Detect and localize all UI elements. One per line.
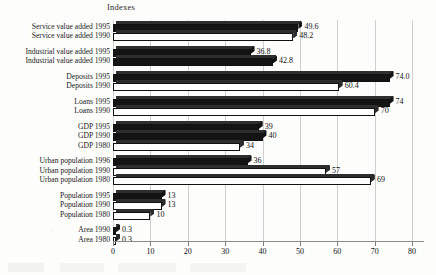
category-label: GDP 1995: [78, 123, 110, 131]
bar-value-label: 49.6: [304, 22, 318, 31]
x-tick-label: 70: [371, 247, 379, 256]
category-label: Deposits 1995: [66, 73, 110, 81]
category-label: Industrial value added 1995: [25, 48, 110, 56]
bar-row: 48.2: [113, 33, 424, 41]
tick-10: [150, 242, 151, 246]
category-label: Area 1980: [78, 236, 110, 244]
bar-value-label: 40: [269, 131, 277, 140]
bar-row: 34: [113, 143, 424, 151]
bar-value-label: 13: [168, 191, 176, 200]
category-label: Area 1990: [78, 226, 110, 234]
category-label: Urban population 1980: [40, 176, 110, 184]
category-axis-labels: Service value added 1995Service value ad…: [0, 20, 112, 242]
category-label: Population 1995: [60, 192, 110, 200]
bar-value-label: 69: [377, 175, 385, 184]
tick-80: [412, 242, 413, 246]
bar-row: 10: [113, 212, 424, 220]
x-tick-label: 20: [184, 247, 192, 256]
plot-area: 49.648.236.842.874.060.47470394034365769…: [113, 20, 424, 242]
category-label: GDP 1980: [78, 142, 110, 150]
bar-industrial-value-added-1990[interactable]: [113, 58, 273, 66]
bar-row: 0.3: [113, 227, 424, 235]
bar-value-label: 39: [265, 122, 273, 131]
category-label: Service value added 1995: [32, 23, 110, 31]
bar-row: 60.4: [113, 83, 424, 91]
tick-30: [225, 242, 226, 246]
category-label: Deposits 1990: [66, 82, 110, 90]
bar-value-label: 48.2: [299, 31, 313, 40]
bar-value-label: 0.3: [122, 225, 132, 234]
x-tick-label: 60: [333, 247, 341, 256]
bar-gdp-1980[interactable]: [113, 143, 240, 151]
tick-0: [113, 242, 114, 246]
bar-value-label: 74: [396, 97, 404, 106]
category-label: GDP 1990: [78, 132, 110, 140]
category-label: Service value added 1990: [32, 32, 110, 40]
bar-value-label: 74.0: [396, 72, 410, 81]
bar-row: 42.8: [113, 58, 424, 66]
x-tick-label: 50: [296, 247, 304, 256]
x-tick-label: 30: [221, 247, 229, 256]
category-label: Urban population 1990: [40, 167, 110, 175]
bar-loans-1990[interactable]: [113, 108, 375, 116]
bar-population-1980[interactable]: [113, 212, 150, 220]
bar-urban-population-1980[interactable]: [113, 177, 371, 185]
bar-value-label: 42.8: [279, 56, 293, 65]
tick-50: [300, 242, 301, 246]
x-tick-label: 80: [408, 247, 416, 256]
tick-20: [188, 242, 189, 246]
x-tick-label: 0: [111, 247, 115, 256]
category-label: Urban population 1996: [40, 157, 110, 165]
bar-row: 69: [113, 177, 424, 185]
page-footer-text-artifact: [8, 263, 308, 272]
bar-value-label: 10: [156, 210, 164, 219]
bar-value-label: 34: [246, 141, 254, 150]
category-label: Population 1990: [60, 201, 110, 209]
x-tick-label: 10: [146, 247, 154, 256]
bar-deposits-1990[interactable]: [113, 83, 339, 91]
tick-70: [375, 242, 376, 246]
tick-60: [337, 242, 338, 246]
category-label: Loans 1995: [74, 98, 110, 106]
bar-value-label: 60.4: [345, 81, 359, 90]
bar-value-label: 13: [168, 200, 176, 209]
tick-40: [263, 242, 264, 246]
bar-service-value-added-1990[interactable]: [113, 33, 293, 41]
chart-page: Indexes Service value added 1995Service …: [0, 0, 436, 275]
bar-row: 70: [113, 108, 424, 116]
x-tick-label: 40: [259, 247, 267, 256]
chart-title: Indexes: [0, 2, 339, 12]
bar-value-label: 70: [381, 106, 389, 115]
category-label: Loans 1990: [74, 107, 110, 115]
bar-series: 49.648.236.842.874.060.47470394034365769…: [113, 20, 424, 242]
category-label: Population 1980: [60, 211, 110, 219]
category-label: Industrial value added 1990: [25, 57, 110, 65]
value-axis: 01020304050607080: [113, 242, 424, 262]
